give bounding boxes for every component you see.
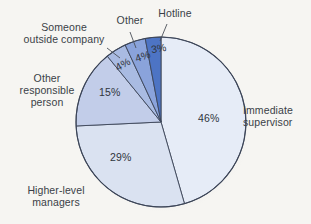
slice-label-other: Other — [108, 15, 152, 27]
slice-value-other-responsible-person: 15% — [99, 86, 120, 98]
slice-label-hotline: Hotline — [150, 8, 200, 20]
slice-value-hotline: 3% — [150, 41, 167, 55]
pie-slices — [76, 37, 246, 207]
slice-value-immediate-supervisor: 46% — [198, 112, 219, 124]
slice-value-higher-level-managers: 29% — [110, 151, 131, 163]
slice-label-higher-level-managers: Higher-level managers — [10, 185, 102, 209]
slice-label-someone-outside-company: Someone outside company — [12, 22, 116, 46]
slice-label-other-responsible-person: Other responsible person — [6, 73, 88, 108]
slice-label-immediate-supervisor: Immediate supervisor — [243, 105, 309, 129]
pie-chart: Someone outside company Other Hotline Ot… — [0, 0, 311, 224]
